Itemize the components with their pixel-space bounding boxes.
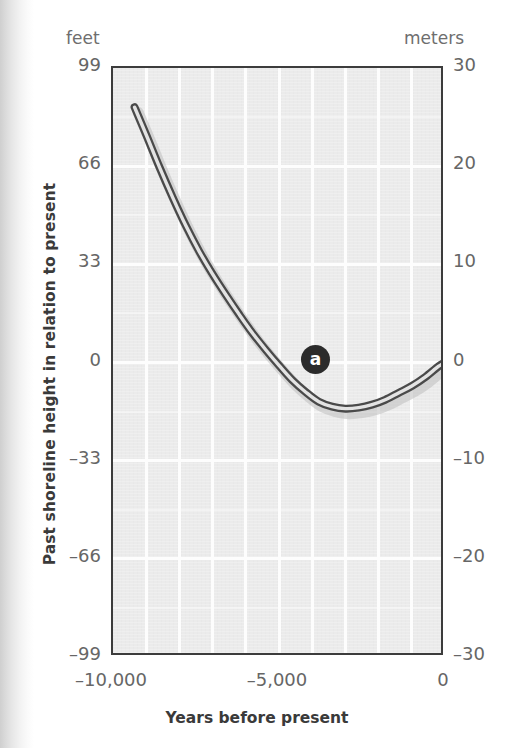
annotation-badge-a[interactable]: a bbox=[301, 345, 330, 374]
page-spine-shadow bbox=[0, 0, 34, 748]
right-axis-unit-header: meters bbox=[404, 28, 464, 48]
left-axis-unit-header: feet bbox=[66, 28, 100, 48]
left-axis-tick-label: –33 bbox=[69, 447, 101, 468]
right-axis-tick-label: 0 bbox=[453, 349, 464, 370]
curve-group bbox=[135, 107, 443, 413]
right-axis-tick-label: 20 bbox=[453, 152, 476, 173]
x-axis-tick-label: –5,000 bbox=[247, 669, 308, 690]
left-axis-tick-label: –66 bbox=[69, 545, 101, 566]
x-axis-title: Years before present bbox=[0, 709, 514, 727]
annotation-badge-label: a bbox=[310, 351, 321, 368]
left-axis-tick-label: 66 bbox=[78, 152, 101, 173]
figure-page: feet meters Past shoreline height in rel… bbox=[0, 0, 514, 748]
right-axis-tick-label: –20 bbox=[453, 545, 485, 566]
left-axis-tick-label: 0 bbox=[90, 349, 101, 370]
curve-outer-stroke bbox=[135, 107, 443, 408]
y-axis-title: Past shoreline height in relation to pre… bbox=[41, 183, 59, 566]
curve-shadow-band bbox=[138, 112, 443, 413]
right-axis-tick-label: 30 bbox=[453, 54, 476, 75]
right-axis-tick-label: –30 bbox=[453, 643, 485, 664]
left-axis-tick-label: –99 bbox=[69, 643, 101, 664]
plot-area: a bbox=[111, 66, 443, 655]
left-axis-tick-label: 99 bbox=[78, 54, 101, 75]
left-axis-tick-label: 33 bbox=[78, 250, 101, 271]
right-axis-tick-label: –10 bbox=[453, 447, 485, 468]
x-axis-tick-label: 0 bbox=[437, 669, 448, 690]
right-axis-tick-label: 10 bbox=[453, 250, 476, 271]
curve-highlight-stroke bbox=[135, 107, 443, 408]
shoreline-height-curve bbox=[113, 68, 443, 655]
x-axis-tick-label: –10,000 bbox=[75, 669, 147, 690]
